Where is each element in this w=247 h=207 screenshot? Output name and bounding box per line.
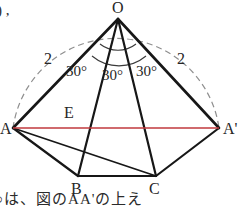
edge-O-Aprime	[118, 19, 219, 128]
geometry-svg	[0, 0, 247, 207]
angle-arc-inner	[100, 44, 136, 50]
edge-length-label-right: 2	[177, 51, 185, 67]
geometry-figure: O A A' B C E 2 2 30° 30° 30° ) , ○は、図のAA…	[0, 0, 247, 207]
edge-length-label-left: 2	[44, 51, 52, 67]
vertex-label-E: E	[64, 105, 74, 121]
top-left-text-fragment: ) ,	[0, 3, 10, 18]
vertex-label-C: C	[149, 181, 160, 197]
edge-C-Aprime	[156, 128, 219, 176]
vertex-label-A-prime: A'	[223, 121, 237, 137]
angle-label-left: 30°	[66, 64, 87, 79]
vertex-label-A: A	[0, 121, 12, 137]
diagonal-A-C	[13, 128, 156, 176]
edge-O-C	[118, 19, 156, 176]
edge-A-B	[13, 128, 78, 176]
bottom-caption-text: ○は、図のAA'の上え	[0, 192, 143, 207]
vertex-label-O: O	[112, 0, 124, 16]
angle-label-center: 30°	[102, 68, 123, 83]
angle-label-right: 30°	[136, 64, 157, 79]
